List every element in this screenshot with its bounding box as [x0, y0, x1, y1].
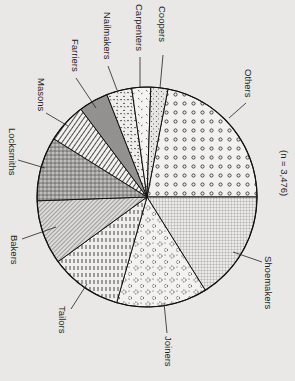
label-joiners: Joiners: [163, 336, 174, 367]
label-locksmiths: Locksmiths: [7, 128, 18, 176]
label-bakers: Bakers: [9, 235, 20, 265]
label-farriers: Farriers: [70, 39, 81, 72]
label-shoemakers: Shoemakers: [263, 256, 274, 309]
pie-slices: [37, 87, 257, 307]
label-nailmakers: Nailmakers: [102, 12, 113, 60]
pie-chart: [0, 0, 295, 381]
label-others: Others: [243, 69, 254, 98]
label-coopers: Coopers: [157, 6, 168, 42]
label-tailors: Tailors: [57, 306, 68, 333]
label-carpenters: Carpenters: [134, 4, 145, 51]
label-masons: Masons: [36, 78, 47, 111]
label-sample-size: (n = 3,476): [279, 150, 290, 196]
